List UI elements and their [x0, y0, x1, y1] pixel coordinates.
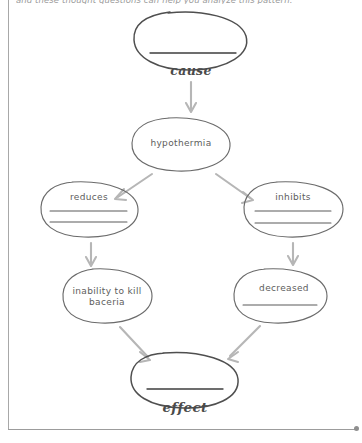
reduces-oval[interactable] [41, 182, 138, 237]
worksheet-page: and these thought questions can help you… [0, 0, 362, 443]
arrow-inhibits-to-decreased [288, 243, 298, 265]
arrow-reduces-to-inability [86, 243, 96, 266]
decreased-oval[interactable] [234, 269, 327, 323]
hypothermia-oval[interactable] [132, 118, 230, 171]
arrow-hypothermia-to-reduces [115, 174, 152, 200]
cause-caption: cause [131, 63, 251, 78]
arrow-hypothermia-to-inhibits [216, 174, 253, 203]
effect-caption: effect [125, 399, 245, 415]
inability-to-kill-bacteria-oval[interactable] [63, 269, 152, 323]
cause-oval[interactable] [134, 12, 247, 70]
inhibits-oval[interactable] [244, 182, 343, 237]
arrow-decreased-to-effect [228, 326, 260, 362]
arrow-cause-to-hypothermia [186, 82, 196, 112]
